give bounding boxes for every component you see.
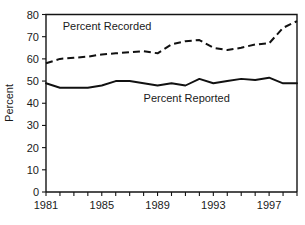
series-line-percent-reported [46, 78, 297, 88]
y-tick-label: 30 [27, 119, 39, 131]
y-axis-tick-labels: 01020304050607080 [27, 9, 39, 199]
y-tick-label: 20 [27, 142, 39, 154]
series-annotations: Percent RecordedPercent Reported [63, 20, 230, 104]
y-tick-label: 40 [27, 97, 39, 109]
y-tick-label: 70 [27, 31, 39, 43]
y-tick-label: 10 [27, 164, 39, 176]
x-tick-label: 1997 [257, 199, 281, 211]
y-tick-label: 60 [27, 53, 39, 65]
line-chart: 01020304050607080 19811985198919931997 P… [0, 0, 305, 225]
x-axis-tick-labels: 19811985198919931997 [34, 199, 282, 211]
y-axis-title: Percent [3, 84, 15, 122]
plot-area: 01020304050607080 19811985198919931997 P… [3, 9, 297, 212]
y-tick-label: 50 [27, 75, 39, 87]
x-tick-label: 1985 [90, 199, 114, 211]
x-tick-label: 1981 [34, 199, 58, 211]
series-inline-label: Percent Recorded [63, 20, 152, 32]
x-tick-label: 1993 [201, 199, 225, 211]
y-tick-label: 80 [27, 9, 39, 21]
series-inline-label: Percent Reported [144, 92, 230, 104]
chart-container: 01020304050607080 19811985198919931997 P… [0, 0, 305, 225]
y-tick-label: 0 [33, 186, 39, 198]
x-tick-label: 1989 [145, 199, 169, 211]
